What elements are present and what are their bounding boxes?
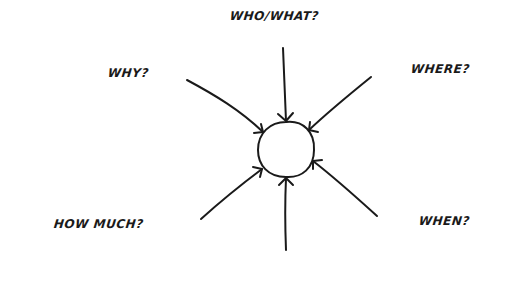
arrow-where [309, 77, 371, 132]
arrow-why [187, 80, 263, 133]
hub-spoke-drawing [0, 0, 509, 287]
label-where: WHERE? [410, 62, 470, 76]
arrow-who-what [278, 48, 293, 121]
label-when: WHEN? [418, 214, 470, 228]
label-why: WHY? [107, 66, 149, 80]
arrow-bottom [279, 178, 293, 250]
arrow-when [313, 160, 377, 216]
arrow-how-much [201, 167, 262, 219]
label-how-much: HOW MUCH? [53, 217, 144, 231]
label-who-what: WHO/WHAT? [229, 9, 319, 23]
center-circle [258, 122, 314, 177]
diagram-canvas: WHO/WHAT? WHY? WHERE? HOW MUCH? WHEN? [0, 0, 509, 287]
